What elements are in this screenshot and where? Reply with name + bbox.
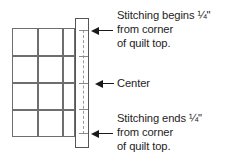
arrow-head-icon: [91, 27, 99, 35]
arrow-tail: [99, 30, 113, 31]
callout-center: Center: [117, 76, 150, 90]
stitch-tick-mark: [79, 133, 88, 134]
stitch-tick-mark: [79, 109, 88, 110]
callout-arrow-stitching-ends: [91, 129, 113, 138]
callout-line: Stitching begins ¼": [117, 8, 211, 22]
diagram-canvas: Stitching begins ¼" from corner of quilt…: [0, 0, 229, 167]
arrow-head-icon: [95, 80, 103, 88]
callout-line: from corner: [117, 125, 202, 139]
callout-line: Stitching ends ¼": [117, 111, 202, 125]
arrow-tail: [99, 133, 113, 134]
grid-column-divider-2: [62, 29, 64, 136]
grid-row-divider-2: [13, 82, 74, 84]
callout-stitching-ends: Stitching ends ¼" from corner of quilt t…: [117, 111, 202, 154]
callout-arrow-stitching-begins: [91, 26, 113, 35]
arrow-head-icon: [91, 130, 99, 138]
stitch-tick-mark: [79, 83, 88, 84]
stitch-tick-mark: [79, 30, 88, 31]
grid-column-divider-1: [37, 29, 39, 136]
grid-row-divider-1: [13, 55, 74, 57]
grid-row-divider-3: [13, 109, 74, 111]
callout-line: Center: [117, 76, 150, 90]
callout-line: from corner: [117, 22, 211, 36]
quilt-top-grid: [12, 28, 75, 137]
arrow-tail: [103, 83, 114, 84]
stitch-tick-mark: [79, 56, 88, 57]
callout-line: of quilt top.: [117, 139, 202, 153]
stitching-line: [83, 30, 84, 134]
callout-line: of quilt top.: [117, 36, 211, 50]
callout-stitching-begins: Stitching begins ¼" from corner of quilt…: [117, 8, 211, 51]
callout-arrow-center: [95, 79, 114, 88]
